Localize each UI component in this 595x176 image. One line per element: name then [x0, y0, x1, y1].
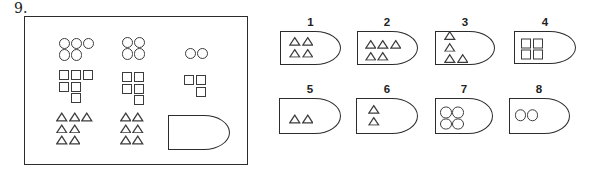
option-1[interactable]: 1 — [280, 16, 341, 65]
triangle-icon — [289, 36, 301, 46]
triangle-icon — [289, 48, 301, 58]
circle-icon — [83, 38, 95, 50]
circle-icon — [59, 49, 71, 61]
circle-icon — [440, 107, 452, 119]
option-8[interactable]: 8 — [509, 83, 570, 134]
square-icon — [134, 84, 144, 94]
circle-cluster — [59, 38, 95, 61]
square-icon — [71, 93, 81, 103]
triangle-icon — [69, 124, 81, 134]
triangle-cluster — [444, 31, 468, 66]
square-icon — [184, 75, 194, 85]
glyph-row — [134, 95, 144, 105]
triangle-cluster — [289, 114, 313, 126]
option-shape — [514, 31, 576, 64]
square-icon — [533, 50, 543, 60]
option-shape — [435, 31, 495, 65]
option-shape — [356, 98, 418, 134]
option-shape — [357, 31, 418, 65]
triangle-icon — [368, 104, 380, 114]
triangle-icon — [365, 39, 377, 49]
triangle-icon — [56, 112, 68, 122]
circle-icon — [71, 49, 83, 61]
option-label: 6 — [356, 83, 418, 96]
triangle-cluster — [365, 39, 402, 62]
glyph-row — [196, 87, 206, 97]
glyph-row — [59, 49, 95, 61]
glyph-row — [521, 38, 543, 48]
glyph-row — [59, 70, 93, 80]
square-icon — [71, 82, 81, 92]
matrix-cell-r1c3 — [185, 48, 209, 60]
option-2[interactable]: 2 — [357, 16, 418, 65]
triangle-icon — [302, 36, 314, 46]
glyph-row — [185, 48, 209, 60]
glyph-row — [56, 124, 93, 134]
square-icon — [196, 75, 206, 85]
glyph-row — [289, 48, 313, 58]
circle-cluster — [440, 107, 464, 130]
glyph-row — [184, 75, 206, 85]
option-label: 8 — [509, 83, 570, 96]
triangle-icon — [69, 135, 81, 145]
circle-icon — [452, 107, 464, 119]
glyph-row — [368, 104, 380, 114]
circle-icon — [197, 48, 209, 60]
glyph-row — [521, 50, 543, 60]
glyph-row — [289, 36, 313, 46]
matrix-cell-r1c1 — [59, 38, 95, 61]
option-7[interactable]: 7 — [435, 83, 493, 134]
triangle-cluster — [368, 104, 380, 127]
option-label: 3 — [435, 16, 495, 29]
triangle-icon — [69, 112, 81, 122]
puzzle-worksheet: 9. 12345678 — [0, 0, 595, 176]
glyph-row — [59, 38, 95, 50]
glyph-row — [59, 82, 93, 92]
circle-icon — [527, 109, 539, 121]
glyph-row — [120, 135, 144, 145]
square-icon — [122, 84, 132, 94]
square-cluster — [122, 72, 144, 105]
square-icon — [521, 50, 531, 60]
triangle-icon — [120, 124, 132, 134]
glyph-row — [120, 112, 144, 122]
glyph-row — [440, 107, 464, 119]
matrix-cell-r1c2 — [122, 37, 146, 60]
glyph-row — [122, 37, 146, 49]
square-icon — [533, 38, 543, 48]
square-icon — [134, 95, 144, 105]
option-label: 5 — [279, 83, 341, 96]
triangle-icon — [444, 42, 456, 52]
glyph-row — [365, 39, 402, 49]
option-shape — [280, 31, 341, 65]
matrix-cell-r2c2 — [122, 72, 144, 107]
triangle-icon — [302, 114, 314, 124]
option-shape — [509, 98, 570, 134]
glyph-row — [444, 42, 468, 52]
option-6[interactable]: 6 — [356, 83, 418, 134]
triangle-cluster — [56, 112, 93, 145]
glyph-row — [56, 112, 93, 122]
triangle-icon — [368, 116, 380, 126]
triangle-icon — [132, 112, 144, 122]
glyph-row — [444, 54, 468, 64]
circle-icon — [452, 118, 464, 130]
circle-icon — [134, 48, 146, 60]
circle-cluster — [122, 37, 146, 60]
option-3[interactable]: 3 — [435, 16, 495, 65]
square-cluster — [59, 70, 93, 103]
circle-icon — [71, 38, 83, 50]
matrix-cell-r2c3 — [184, 75, 206, 98]
option-4[interactable]: 4 — [514, 16, 576, 64]
option-label: 4 — [514, 16, 576, 29]
circle-icon — [122, 37, 134, 49]
triangle-cluster — [289, 36, 313, 59]
glyph-row — [365, 51, 402, 61]
triangle-icon — [365, 51, 377, 61]
option-5[interactable]: 5 — [279, 83, 341, 134]
option-label: 2 — [357, 16, 418, 29]
glyph-row — [120, 124, 144, 134]
square-icon — [71, 70, 81, 80]
square-icon — [521, 38, 531, 48]
square-icon — [134, 72, 144, 82]
